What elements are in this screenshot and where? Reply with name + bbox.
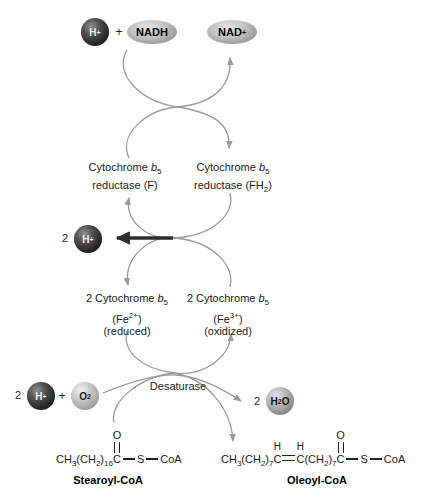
cc-double-bond-icon [282,455,295,461]
single-bond-icon [346,458,358,459]
arc-fh2-to-f [128,193,230,238]
cytochrome-b5-oxidized-label: 2 Cytochrome b5 (Fe3+) (oxidized) [187,292,269,337]
nad-oval: NAD+ [207,20,257,44]
oxygen-sphere: O2 [71,382,99,410]
stearoyl-carbonyl-carbon: OC [113,453,121,465]
double-bond-icon [114,442,120,453]
proton-sphere-top: H+ [81,18,109,46]
single-bond-icon [146,458,158,459]
hydrogen-atom: H [297,441,304,452]
nadh-oval: NADH [127,20,177,44]
arc-f-to-nad [127,58,231,158]
desaturase-label: Desaturase [150,380,206,393]
cytochrome-b5-reductase-f-label: Cytochrome b5 reductase (F) [89,161,162,191]
plus-sign-top: + [115,25,122,39]
proton-count-mid: 2 [62,232,68,244]
arc-fe2-to-fe3 [126,331,231,373]
proton-count-bottom: 2 [15,389,21,401]
water-sphere: H2O [266,387,294,415]
oxygen-atom: O [113,429,122,441]
single-bond-icon [370,458,382,459]
hydrogen-atom: H [274,441,281,452]
cytochrome-b5-reduced-label: 2 Cytochrome b5 (Fe2+) (reduced) [86,292,168,337]
arc-nadh-to-fh2 [123,50,229,148]
cytochrome-b5-reductase-fh2-label: Cytochrome b5 reductase (FH2) [194,161,272,196]
proton-sphere-mid: H+ [74,225,102,253]
single-bond-icon [123,458,135,459]
stearoyl-coa-name: Stearoyl-CoA [73,474,143,486]
desaturation-pathway-diagram: H+ + NADH NAD+ Cytochrome b5 reductase (… [0,0,432,502]
oxygen-atom: O [336,429,345,441]
oleoyl-coa-structure: CH3(CH2)7HCHC(CH2)7OCSCoA [221,453,405,468]
double-bond-icon [338,442,344,453]
oleoyl-vinyl-carbon-2: HC [296,453,304,465]
arc-fe3-to-fe2 [127,238,230,287]
proton-sphere-bottom: H+ [27,382,55,410]
pathway-arrows-layer [0,0,432,502]
stearoyl-coa-structure: CH3(CH2)16OCSCoA [56,453,182,468]
oleoyl-carbonyl-carbon: OC [337,453,345,465]
oleoyl-coa-name: Oleoyl-CoA [287,474,347,486]
oleoyl-vinyl-carbon-1: HC [273,453,281,465]
water-count: 2 [254,395,260,407]
plus-sign-bottom: + [58,389,65,403]
